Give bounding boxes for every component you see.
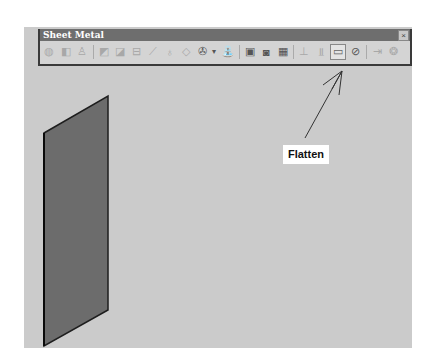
- chevron-down-icon[interactable]: ▾: [212, 47, 218, 56]
- flatten-callout-label: Flatten: [283, 145, 329, 164]
- cutting-icon[interactable]: ✇: [196, 45, 210, 59]
- pattern-icon[interactable]: ▣: [243, 45, 257, 59]
- sheet-metal-parameters-icon[interactable]: ◍: [42, 45, 56, 59]
- toolbar-separator: [293, 45, 294, 59]
- toolbar-separator: [239, 45, 240, 59]
- toolbar-title[interactable]: Sheet Metal: [40, 29, 410, 41]
- recognize-icon[interactable]: ❂: [387, 45, 401, 59]
- hem-icon[interactable]: ♁: [163, 45, 177, 59]
- toolbar-separator: [366, 45, 367, 59]
- sheet-metal-toolbar: Sheet Metal × ◍ ◧ ♙ ◩ ◪ ⊟ ⟋ ♁ ◇ ✇ ▾ ⛲ ▣ …: [38, 29, 412, 66]
- extrusion-icon[interactable]: ◪: [113, 45, 127, 59]
- wall-on-edge-icon[interactable]: ◩: [97, 45, 111, 59]
- fold-unfold-icon[interactable]: ⊘: [349, 45, 363, 59]
- bend-icon[interactable]: ⊟: [130, 45, 144, 59]
- fold-icon[interactable]: ⫫: [314, 45, 328, 59]
- toolbar-icon-row: ◍ ◧ ♙ ◩ ◪ ⊟ ⟋ ♁ ◇ ✇ ▾ ⛲ ▣ ◙ ▦ ⊥ ⫫ ▭ ⊘ ⇥ …: [42, 42, 408, 61]
- tear-drop-icon[interactable]: ◇: [179, 45, 193, 59]
- unfold-icon[interactable]: ⊥: [297, 45, 311, 59]
- 3d-viewport[interactable]: [24, 27, 412, 348]
- grid-icon[interactable]: ▦: [276, 45, 290, 59]
- flatten-icon[interactable]: ▭: [330, 44, 346, 60]
- toolbar-separator: [93, 45, 94, 59]
- flange-icon[interactable]: ⟋: [146, 45, 160, 59]
- point-mapping-icon[interactable]: ⇥: [370, 45, 384, 59]
- rolled-walls-icon[interactable]: ♙: [75, 45, 89, 59]
- stamping-icon[interactable]: ⛲: [221, 45, 235, 59]
- copy-icon[interactable]: ◙: [259, 45, 273, 59]
- walls-icon[interactable]: ◧: [59, 45, 73, 59]
- close-icon[interactable]: ×: [398, 30, 409, 41]
